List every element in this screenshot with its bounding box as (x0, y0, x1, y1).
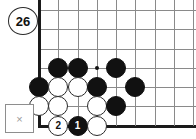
stone-white[interactable] (87, 96, 107, 116)
stone-black[interactable] (68, 58, 88, 78)
x-marker-box[interactable]: × (5, 104, 34, 133)
stone-black-move-1[interactable]: 1 (68, 116, 88, 136)
board-gridline-horizontal (39, 29, 196, 30)
stone-white-move-2[interactable]: 2 (48, 116, 68, 136)
stone-black[interactable] (29, 77, 49, 97)
board-gridline-vertical (193, 0, 194, 126)
stone-white[interactable] (87, 116, 107, 136)
board-gridline-vertical (174, 0, 175, 126)
star-point (95, 66, 99, 70)
stone-white[interactable] (68, 77, 88, 97)
stone-black[interactable] (87, 77, 107, 97)
board-gridline-vertical (155, 0, 156, 126)
move-number-badge: 26 (8, 7, 38, 35)
stone-black[interactable] (48, 58, 68, 78)
stone-black[interactable] (106, 58, 126, 78)
stone-black[interactable] (106, 96, 126, 116)
stone-white[interactable] (48, 96, 68, 116)
go-diagram-root: 21 26 × (0, 0, 196, 139)
stone-black[interactable] (125, 77, 145, 97)
stone-white[interactable] (48, 77, 68, 97)
board-gridline-horizontal (39, 49, 196, 50)
board-gridline-vertical (135, 0, 136, 126)
board-gridline-horizontal (39, 10, 196, 11)
